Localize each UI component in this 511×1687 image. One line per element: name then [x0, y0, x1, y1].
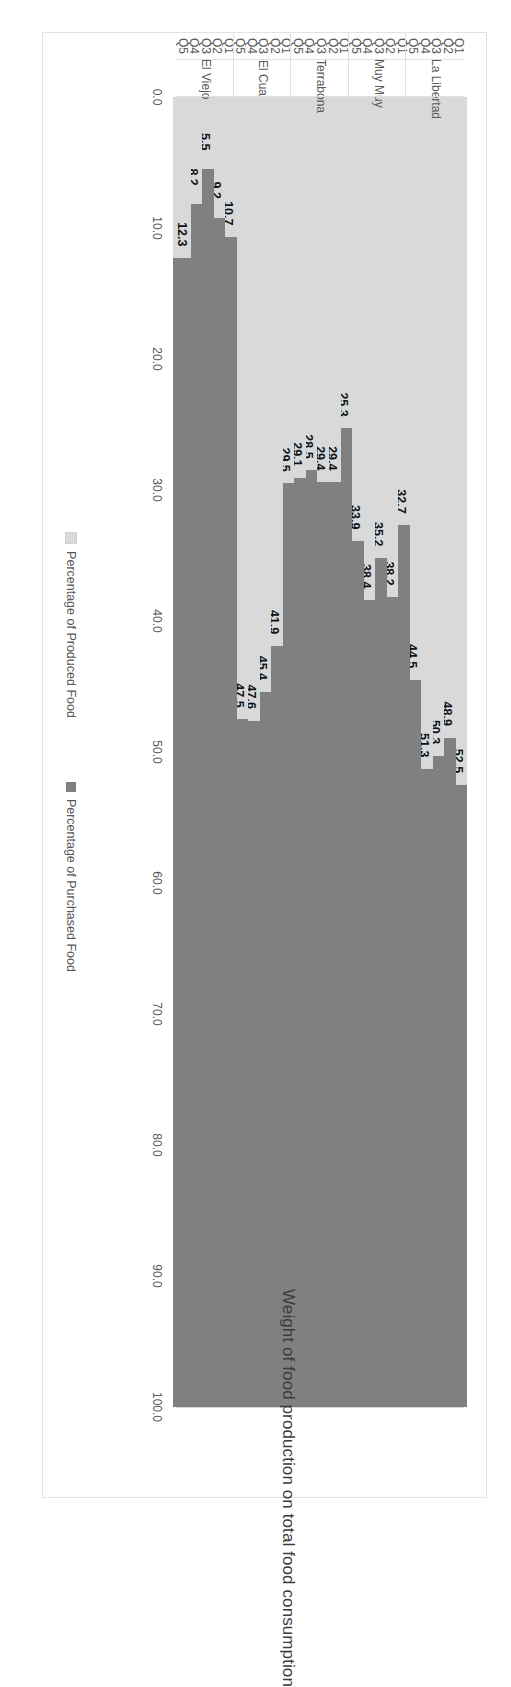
legend-item[interactable]: Percentage of Purchased Food	[64, 782, 78, 972]
group-label: El Viejo	[199, 59, 213, 97]
category-label-q5: Q5	[176, 33, 190, 59]
value-tick-label: 40.0	[150, 609, 164, 632]
group-separator	[348, 33, 349, 97]
chart-legend: Percentage of Produced FoodPercentage of…	[56, 97, 86, 1407]
category-axis-outer-line	[176, 96, 464, 97]
value-tick-label: 60.0	[150, 871, 164, 894]
group-label: Muy Muy	[372, 59, 386, 97]
plot-area: 52.548.950.351.344.532.738.235.238.433.9…	[176, 97, 464, 1407]
value-tick-label: 50.0	[150, 740, 164, 763]
bar-value-label: 12.3	[173, 222, 191, 246]
value-tick-label: 100.0	[150, 1392, 164, 1422]
category-axis-divider	[176, 59, 464, 60]
group-separator	[290, 33, 291, 97]
gridline	[176, 1407, 464, 1408]
group-label: La Libertad	[429, 59, 443, 97]
legend-swatch-icon	[65, 532, 77, 544]
chart-title-text: Weight of food production on total food …	[279, 1289, 299, 1687]
value-tick-label: 80.0	[150, 1133, 164, 1156]
value-tick-label: 30.0	[150, 478, 164, 501]
value-tick-label: 20.0	[150, 347, 164, 370]
value-tick-label: 10.0	[150, 216, 164, 239]
chart-title: Weight of food production on total food …	[66, 1466, 511, 1510]
legend-label: Percentage of Produced Food	[64, 551, 78, 718]
group-label: Terrabona	[314, 59, 328, 97]
legend-swatch-icon	[66, 782, 76, 792]
bar-row[interactable]: 12.3	[173, 97, 191, 1407]
group-label: El Cua	[256, 59, 270, 97]
legend-label: Percentage of Purchased Food	[64, 799, 78, 972]
group-separator	[233, 33, 234, 97]
chart-frame: 52.548.950.351.344.532.738.235.238.433.9…	[42, 32, 487, 1498]
bar-segment-purchased[interactable]	[173, 258, 191, 1407]
value-axis: 0.010.020.030.040.050.060.070.080.090.01…	[124, 97, 168, 1407]
legend-item[interactable]: Percentage of Produced Food	[64, 532, 78, 718]
value-tick-label: 0.0	[150, 89, 164, 106]
value-tick-label: 70.0	[150, 1002, 164, 1025]
group-separator	[405, 33, 406, 97]
category-axis: Q1Q2Q3Q4Q5Q1Q2Q3Q4Q5Q1Q2Q3Q4Q5Q1Q2Q3Q4Q5…	[176, 33, 464, 97]
value-tick-label: 90.0	[150, 1264, 164, 1287]
